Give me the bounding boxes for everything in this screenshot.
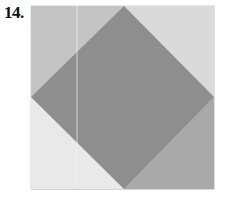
square-diamond-figure — [0, 0, 232, 199]
